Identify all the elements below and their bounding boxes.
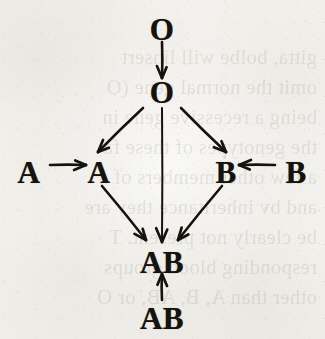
arrow-b-to-ab bbox=[178, 186, 222, 240]
arrow-o-to-o bbox=[157, 42, 167, 78]
genotype-node-b-middle: B bbox=[215, 157, 236, 188]
inheritance-diagram: OOAABBABAB bbox=[0, 0, 325, 339]
arrow-layer bbox=[0, 0, 325, 339]
genotype-node-ab-middle: AB bbox=[140, 247, 184, 278]
genotype-node-o-middle: O bbox=[150, 77, 175, 108]
arrow-a-to-a bbox=[50, 160, 86, 170]
genotype-node-o-top: O bbox=[150, 14, 175, 45]
arrow-b-to-b bbox=[239, 160, 275, 170]
arrow-o-to-b bbox=[181, 108, 226, 152]
arrow-a-to-ab bbox=[102, 186, 146, 240]
genotype-node-b-right: B bbox=[285, 157, 306, 188]
figure-page: gitta, bolbe will linsertomit the normal… bbox=[0, 0, 325, 339]
genotype-node-ab-bottom: AB bbox=[140, 303, 184, 334]
genotype-node-a-left: A bbox=[18, 157, 41, 188]
genotype-node-a-middle: A bbox=[88, 157, 111, 188]
arrow-o-to-ab bbox=[156, 108, 167, 242]
arrow-o-to-a bbox=[98, 108, 143, 152]
